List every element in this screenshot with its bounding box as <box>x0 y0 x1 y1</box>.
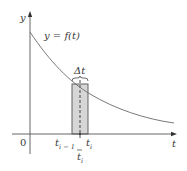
svg-text:i: i <box>90 143 92 151</box>
riemann-rectangle-diagram: y t 0 y = f(t) Δt t i − 1 t i t i <box>0 0 187 171</box>
curve-f-of-t <box>30 32 174 123</box>
sample-point-label: t i <box>77 150 83 165</box>
curve-label: y = f(t) <box>43 30 80 41</box>
left-endpoint-label: t i − 1 <box>55 137 75 151</box>
sample-point-marker <box>79 133 81 135</box>
y-axis-label: y <box>19 12 26 23</box>
svg-text:i: i <box>81 157 83 165</box>
right-endpoint-label: t i <box>86 137 92 151</box>
origin-label: 0 <box>20 137 26 148</box>
x-axis-label: t <box>172 138 177 149</box>
svg-text:i − 1: i − 1 <box>59 143 75 151</box>
x-axis-arrow-icon <box>171 132 177 136</box>
y-axis-arrow-icon <box>28 11 32 17</box>
delta-t-label: Δt <box>73 65 86 76</box>
